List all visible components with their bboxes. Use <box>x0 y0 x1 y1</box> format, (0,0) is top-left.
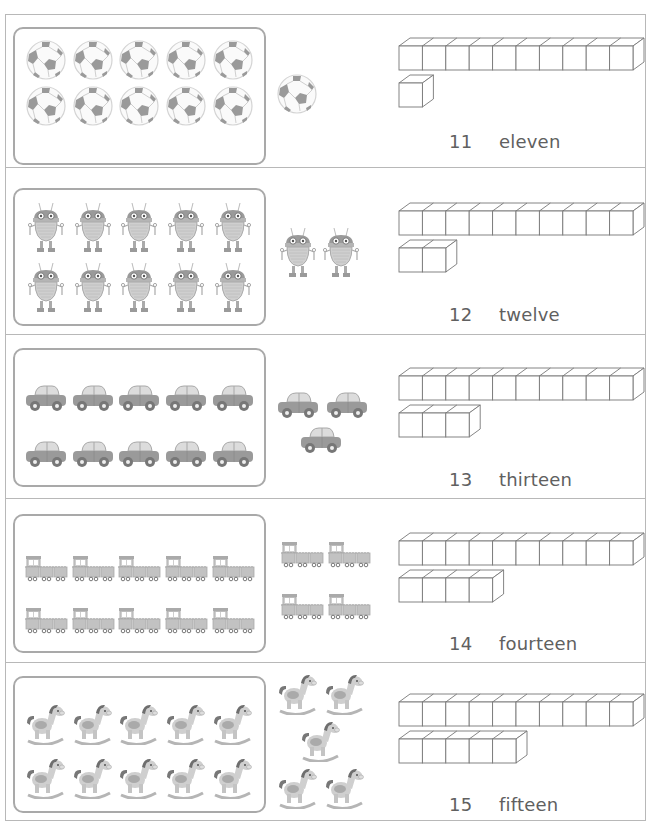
soccer-ball-icon <box>212 39 254 81</box>
train-icon <box>280 540 324 568</box>
ones-group <box>274 335 378 499</box>
unit-cubes <box>399 240 457 272</box>
ten-frame <box>13 27 266 165</box>
car-icon <box>211 383 255 413</box>
rocking-horse-icon <box>324 765 366 809</box>
row-13: 13thirteen <box>6 334 645 498</box>
row-12: 12twelve <box>6 167 645 334</box>
rocking-horse-icon <box>72 701 114 745</box>
car-icon <box>117 383 161 413</box>
ones-group <box>274 499 378 663</box>
train-icon <box>24 554 68 582</box>
soccer-ball-icon <box>25 85 67 127</box>
car-icon <box>71 383 115 413</box>
number-numeral: 14 <box>449 633 499 654</box>
number-label: 15fifteen <box>449 794 558 815</box>
car-icon <box>164 439 208 469</box>
unit-cubes <box>399 570 504 602</box>
rocking-horse-icon <box>165 701 207 745</box>
base-ten-blocks <box>398 367 650 447</box>
robot-icon <box>213 261 253 315</box>
number-word: thirteen <box>499 469 572 490</box>
rocking-horse-icon <box>212 755 254 799</box>
soccer-ball-icon <box>72 39 114 81</box>
car-icon <box>211 439 255 469</box>
car-icon <box>164 383 208 413</box>
car-icon <box>24 383 68 413</box>
soccer-ball-icon <box>165 39 207 81</box>
rocking-horse-icon <box>277 765 319 809</box>
rocking-horse-icon <box>25 701 67 745</box>
number-word: fifteen <box>499 794 558 815</box>
number-word: eleven <box>499 131 560 152</box>
train-icon <box>164 554 208 582</box>
number-label: 12twelve <box>449 304 560 325</box>
unit-cubes <box>399 731 527 763</box>
rocking-horse-icon <box>118 701 160 745</box>
base-ten-blocks <box>398 693 650 773</box>
robot-icon <box>26 261 66 315</box>
ten-rod <box>399 533 644 565</box>
train-icon <box>280 592 324 620</box>
train-icon <box>327 540 371 568</box>
car-icon <box>71 439 115 469</box>
number-word: twelve <box>499 304 560 325</box>
ten-group <box>23 37 256 129</box>
train-icon <box>211 606 255 634</box>
soccer-ball-icon <box>72 85 114 127</box>
row-15: 15fifteen <box>6 662 645 822</box>
robot-icon <box>321 226 361 280</box>
robot-icon <box>278 226 318 280</box>
unit-cubes <box>399 75 433 107</box>
unit-cubes <box>399 405 480 437</box>
ten-rod <box>399 694 644 726</box>
ten-rod <box>399 203 644 235</box>
ten-frame <box>13 514 266 653</box>
ones-group <box>274 168 378 335</box>
rocking-horse-icon <box>165 755 207 799</box>
train-icon <box>24 606 68 634</box>
soccer-ball-icon <box>212 85 254 127</box>
soccer-ball-icon <box>25 39 67 81</box>
ten-frame <box>13 188 266 326</box>
robot-icon <box>119 201 159 255</box>
ten-group <box>23 198 256 318</box>
car-icon <box>325 390 369 420</box>
number-numeral: 11 <box>449 131 499 152</box>
number-numeral: 12 <box>449 304 499 325</box>
robot-icon <box>166 261 206 315</box>
rocking-horse-icon <box>118 755 160 799</box>
car-icon <box>299 425 343 455</box>
rocking-horse-icon <box>72 755 114 799</box>
train-icon <box>71 554 115 582</box>
rocking-horse-icon <box>277 671 319 715</box>
number-label: 14fourteen <box>449 633 577 654</box>
train-icon <box>117 606 161 634</box>
train-icon <box>327 592 371 620</box>
robot-icon <box>119 261 159 315</box>
soccer-ball-icon <box>165 85 207 127</box>
robot-icon <box>73 201 113 255</box>
robot-icon <box>73 261 113 315</box>
row-11: 11eleven <box>6 15 645 167</box>
ten-group <box>23 370 256 482</box>
soccer-ball-icon <box>118 85 160 127</box>
soccer-ball-icon <box>118 39 160 81</box>
train-icon <box>117 554 161 582</box>
ten-group <box>23 696 256 804</box>
car-icon <box>24 439 68 469</box>
rocking-horse-icon <box>300 718 342 762</box>
ten-rod <box>399 368 644 400</box>
number-numeral: 15 <box>449 794 499 815</box>
row-14: 14fourteen <box>6 498 645 662</box>
ten-frame <box>13 676 266 813</box>
number-numeral: 13 <box>449 469 499 490</box>
robot-icon <box>166 201 206 255</box>
ten-group <box>23 542 256 646</box>
worksheet: 11eleven <box>5 14 646 821</box>
base-ten-blocks <box>398 532 650 612</box>
robot-icon <box>26 201 66 255</box>
robot-icon <box>213 201 253 255</box>
ones-group <box>274 663 378 823</box>
number-word: fourteen <box>499 633 577 654</box>
